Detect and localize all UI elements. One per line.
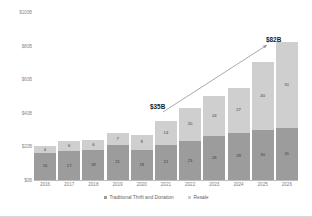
bar-segment-resale[interactable]: 14 (155, 121, 177, 145)
y-axis: $100B$80B$60B$40B$20B$0B (0, 12, 32, 180)
bar-value-label: 21 (115, 160, 120, 164)
legend-item[interactable]: Traditional Thrift and Donation (104, 195, 174, 200)
bar-value-label: 6 (68, 144, 70, 148)
bar-value-label: 17 (67, 164, 72, 168)
bar-segment-resale[interactable]: 40 (252, 62, 274, 129)
bar-value-label: 18 (91, 163, 96, 167)
bar-segment-traditional[interactable]: 21 (155, 145, 177, 180)
bar-segment-resale[interactable]: 24 (203, 96, 225, 136)
y-axis-tick-label: $80B (2, 43, 32, 48)
bar-value-label: 14 (164, 131, 169, 135)
legend-label: Resale (194, 195, 209, 200)
chart-container: $100B$80B$60B$40B$20B$0B 416617618721918… (0, 0, 312, 217)
chart-legend: Traditional Thrift and DonationResale (0, 195, 312, 200)
bar-value-label: 28 (236, 154, 241, 158)
bar-column[interactable]: 721 (107, 12, 129, 180)
bar-value-label: 18 (139, 163, 144, 167)
bar-segment-traditional[interactable]: 28 (228, 133, 250, 180)
bar-value-label: 21 (164, 160, 169, 164)
bar-value-label: 31 (285, 152, 290, 156)
bar-segment-traditional[interactable]: 16 (34, 153, 56, 180)
bar-segment-resale[interactable]: 7 (107, 133, 129, 145)
bar-value-label: 23 (188, 159, 193, 163)
bar-value-label: 16 (43, 164, 48, 168)
bar-value-label: 30 (260, 153, 265, 157)
y-axis-tick-label: $0B (2, 178, 32, 183)
x-axis-tick-label: 2017 (58, 182, 80, 187)
bar-value-label: 4 (44, 148, 46, 152)
bar-segment-resale[interactable]: 27 (228, 88, 250, 133)
bar-segment-traditional[interactable]: 18 (131, 150, 153, 180)
y-axis-tick-label: $60B (2, 77, 32, 82)
bar-segment-traditional[interactable]: 30 (252, 130, 274, 180)
bar-column[interactable]: 1421 (155, 12, 177, 180)
bar-segment-resale[interactable]: 6 (58, 141, 80, 151)
bar-value-label: 27 (236, 108, 241, 112)
bar-segment-resale[interactable]: 51 (276, 42, 298, 128)
bar-segment-resale[interactable]: 9 (131, 135, 153, 150)
bar-value-label: 9 (141, 140, 143, 144)
bar-series-group: 416617618721918142120232426272840305131 (34, 12, 298, 180)
bar-column[interactable]: 2728 (228, 12, 250, 180)
bar-column[interactable]: 618 (82, 12, 104, 180)
bar-value-label: 20 (188, 122, 193, 126)
callout-start-value: $35B (150, 103, 165, 110)
x-axis-tick-label: 2023 (203, 182, 225, 187)
x-axis-tick-label: 2021 (155, 182, 177, 187)
bar-column[interactable]: 918 (131, 12, 153, 180)
bar-value-label: 26 (212, 156, 217, 160)
y-axis-tick-label: $40B (2, 110, 32, 115)
legend-item[interactable]: Resale (188, 195, 209, 200)
bar-column[interactable]: 2426 (203, 12, 225, 180)
x-axis-tick-label: 2022 (179, 182, 201, 187)
x-axis-tick-label: 2024 (228, 182, 250, 187)
x-axis-tick-label: 2020 (131, 182, 153, 187)
x-axis-tick-label: 2016 (34, 182, 56, 187)
x-axis-tick-label: 2018 (82, 182, 104, 187)
legend-swatch-icon (188, 196, 191, 199)
x-axis-tick-label: 2026 (276, 182, 298, 187)
bar-column[interactable]: 416 (34, 12, 56, 180)
bar-column[interactable]: 2023 (179, 12, 201, 180)
bar-segment-traditional[interactable]: 21 (107, 145, 129, 180)
bar-segment-traditional[interactable]: 31 (276, 128, 298, 180)
x-axis-labels: 2016201720182019202020212022202320242025… (34, 182, 298, 187)
x-axis-line (34, 180, 298, 181)
legend-swatch-icon (104, 196, 107, 199)
bar-column[interactable]: 617 (58, 12, 80, 180)
bar-segment-traditional[interactable]: 18 (82, 150, 104, 180)
bar-segment-resale[interactable]: 6 (82, 140, 104, 150)
bar-value-label: 24 (212, 114, 217, 118)
y-axis-tick-label: $100B (2, 10, 32, 15)
bar-segment-traditional[interactable]: 26 (203, 136, 225, 180)
x-axis-tick-label: 2025 (252, 182, 274, 187)
bar-value-label: 6 (92, 143, 94, 147)
bar-segment-resale[interactable]: 20 (179, 108, 201, 142)
x-axis-tick-label: 2019 (107, 182, 129, 187)
callout-end-value: $82B (266, 36, 281, 43)
bar-segment-traditional[interactable]: 17 (58, 151, 80, 180)
bar-segment-traditional[interactable]: 23 (179, 141, 201, 180)
bar-value-label: 40 (260, 94, 265, 98)
y-axis-tick-label: $20B (2, 144, 32, 149)
bar-value-label: 7 (116, 137, 118, 141)
bar-segment-resale[interactable]: 4 (34, 146, 56, 153)
legend-label: Traditional Thrift and Donation (109, 195, 173, 200)
bar-value-label: 51 (285, 83, 290, 87)
